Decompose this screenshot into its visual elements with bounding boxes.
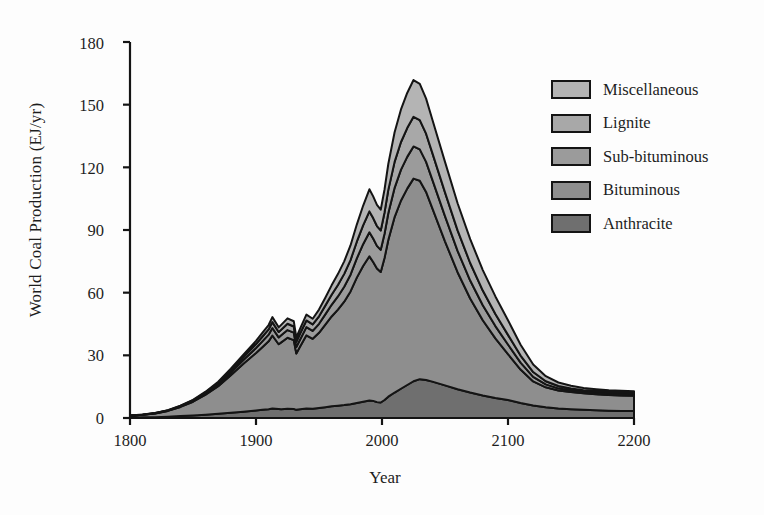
chart-figure: World Coal Production (EJ/yr) Year 180 1…: [0, 0, 764, 515]
legend-swatch-miscellaneous: [551, 80, 591, 99]
legend-swatch-bituminous: [551, 181, 591, 200]
legend-item[interactable]: Anthracite: [551, 207, 761, 241]
legend-item[interactable]: Bituminous: [551, 174, 761, 208]
legend-label: Sub-bituminous: [603, 149, 708, 166]
legend-label: Miscellaneous: [603, 82, 698, 99]
legend-swatch-sub-bituminous: [551, 147, 591, 166]
legend-item[interactable]: Sub-bituminous: [551, 140, 761, 174]
legend-item[interactable]: Lignite: [551, 107, 761, 141]
legend-label: Lignite: [603, 115, 651, 132]
legend-swatch-lignite: [551, 114, 591, 133]
legend-label: Anthracite: [603, 216, 673, 233]
legend-item[interactable]: Miscellaneous: [551, 73, 761, 107]
legend-label: Bituminous: [603, 182, 680, 199]
legend: Miscellaneous Lignite Sub-bituminous Bit…: [551, 73, 761, 241]
legend-swatch-anthracite: [551, 214, 591, 233]
